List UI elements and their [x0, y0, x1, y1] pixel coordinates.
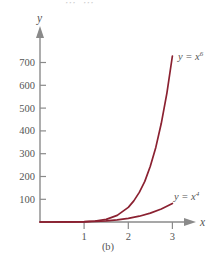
x-axis-label: x	[199, 216, 206, 228]
y-tick-label: 400	[19, 125, 35, 136]
y-axis-label: y	[36, 12, 43, 25]
y-axis-ticks	[40, 63, 46, 200]
y-axis-arrow-icon	[36, 26, 44, 38]
series-label-x6-exponent: 6	[200, 50, 204, 58]
y-axis	[36, 26, 44, 222]
y-tick-label: 200	[19, 171, 35, 182]
x-axis-ticks	[84, 222, 172, 229]
series-label-x6-base: y = x	[177, 51, 200, 62]
series-label-x4: y = x4	[173, 190, 200, 202]
series-label-x4-exponent: 4	[196, 190, 200, 198]
y-tick-label: 600	[19, 80, 35, 91]
x-axis-arrow-icon	[184, 218, 196, 226]
y-tick-label: 300	[19, 148, 35, 159]
series-label-x6: y = x6	[177, 50, 204, 62]
curve-x6	[40, 56, 172, 222]
y-axis-tick-labels: 700 600 500 400 300 200 100	[19, 57, 35, 205]
y-tick-label: 700	[19, 57, 35, 68]
figure-caption: (b)	[0, 241, 216, 252]
series-label-x4-base: y = x	[173, 191, 196, 202]
figure-container: ⋯ ⋯ 700 600 500 400 300 200 100	[0, 0, 216, 260]
chart-plot-area: 700 600 500 400 300 200 100 1 2 3 y x y …	[0, 0, 216, 260]
y-tick-label: 100	[19, 194, 35, 205]
y-tick-label: 500	[19, 103, 35, 114]
